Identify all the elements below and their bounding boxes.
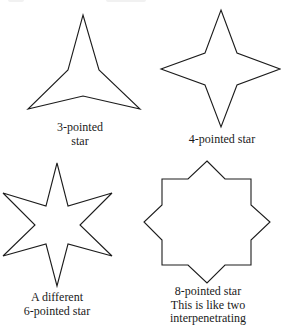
caption-line: 6-pointed star xyxy=(7,305,107,319)
eight-pointed-star-icon xyxy=(144,161,270,283)
caption-line: 8-pointed star xyxy=(153,285,263,299)
caption-line: interpenetrating xyxy=(153,312,263,326)
four-pointed-star-icon xyxy=(161,10,280,127)
caption-line: star xyxy=(40,135,120,149)
caption-line: 4-pointed star xyxy=(170,133,274,147)
six-pointed-star-icon xyxy=(3,163,112,286)
three-pointed-star-icon xyxy=(28,15,140,109)
caption-4-pointed-star: 4-pointed star xyxy=(170,133,274,147)
caption-line: This is like two xyxy=(153,299,263,313)
caption-line: A different xyxy=(7,291,107,305)
caption-6-pointed-star: A different 6-pointed star xyxy=(7,291,107,318)
star-diagram xyxy=(0,0,281,327)
caption-line: 3-pointed xyxy=(40,121,120,135)
cropped-heading-remnant xyxy=(8,0,24,2)
caption-8-pointed-star: 8-pointed star This is like two interpen… xyxy=(153,285,263,326)
caption-3-pointed-star: 3-pointed star xyxy=(40,121,120,148)
cropped-heading-remnant xyxy=(106,0,146,2)
